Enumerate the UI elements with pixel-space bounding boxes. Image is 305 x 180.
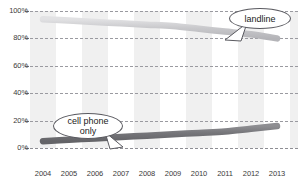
background-band bbox=[290, 11, 298, 148]
annotation-landline-bubble: landline bbox=[229, 8, 291, 29]
xtick-label-2013: 2013 bbox=[257, 170, 297, 178]
background-band bbox=[30, 11, 56, 148]
gridline-0 bbox=[30, 148, 298, 149]
gridline-80 bbox=[30, 38, 298, 39]
annotation-cellphone-bubble: cell phone only bbox=[53, 113, 123, 139]
ytick-label-20: 20% bbox=[0, 117, 28, 125]
background-band bbox=[186, 11, 212, 148]
ytick-label-100: 100% bbox=[0, 7, 28, 15]
ytick-label-60: 60% bbox=[0, 62, 28, 70]
ytick-label-0: 0% bbox=[0, 144, 28, 152]
ytick-label-40: 40% bbox=[0, 89, 28, 97]
chart-container: 100% 80% 60% 40% 20% 0% 2004 2005 2006 2… bbox=[0, 0, 305, 180]
annotation-cellphone-label-line2: only bbox=[67, 126, 108, 136]
ytick-label-80: 80% bbox=[0, 34, 28, 42]
gridline-60 bbox=[30, 66, 298, 67]
annotation-cellphone-label-line1: cell phone bbox=[67, 116, 108, 126]
gridline-40 bbox=[30, 93, 298, 94]
background-band bbox=[134, 11, 160, 148]
annotation-landline-label: landline bbox=[244, 14, 275, 24]
